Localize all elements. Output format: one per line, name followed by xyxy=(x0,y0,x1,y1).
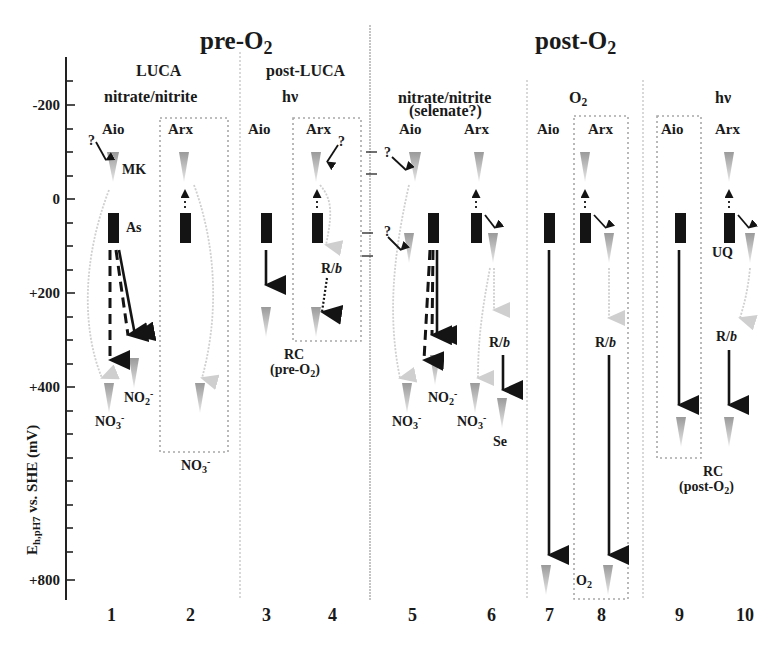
column-number: 7 xyxy=(545,606,554,624)
label-as: As xyxy=(126,221,142,235)
group-dividers xyxy=(240,52,643,600)
label-no3-5: NO3- xyxy=(392,415,421,429)
enzyme-aio-9: Aio xyxy=(661,122,684,137)
label-se: Se xyxy=(493,435,507,449)
column-number: 10 xyxy=(736,606,754,624)
group-hv-post: hν xyxy=(715,90,731,106)
question-mark: ? xyxy=(338,135,345,149)
label-o2: O2 xyxy=(576,574,592,588)
y-tick-label: -200 xyxy=(10,98,60,113)
column-number: 1 xyxy=(107,606,116,624)
enzyme-arx-2: Arx xyxy=(168,122,193,137)
solid-arrows xyxy=(119,250,729,555)
label-no3-6: NO3- xyxy=(457,415,486,429)
label-rb-6: R/b xyxy=(489,336,510,350)
enzyme-arx-4: Arx xyxy=(306,122,331,137)
label-no3-1: NO3- xyxy=(95,415,124,429)
y-axis-label: Eh,pH7 vs. SHE (mV) xyxy=(25,425,40,555)
enzyme-aio-3: Aio xyxy=(248,122,271,137)
label-no2-1: NO2- xyxy=(124,391,153,405)
era-title-post-o2: post-O2 xyxy=(535,28,616,53)
era-title-pre-o2: pre-O2 xyxy=(200,28,272,53)
y-tick-label: +200 xyxy=(10,286,60,301)
column-number: 9 xyxy=(675,606,684,624)
label-rc-post-o2: (post-O2) xyxy=(679,480,734,494)
enzyme-arx-10: Arx xyxy=(715,122,740,137)
question-mark: ? xyxy=(384,146,391,160)
label-uq: UQ xyxy=(712,246,733,260)
label-rb-8: R/b xyxy=(595,336,616,350)
column-number: 4 xyxy=(328,606,337,624)
group-o2: O2 xyxy=(569,90,587,106)
group-hv-pre: hν xyxy=(282,89,298,105)
y-tick-label: +800 xyxy=(10,573,60,588)
label-rb-4: R/b xyxy=(321,262,342,276)
column-number: 3 xyxy=(262,606,271,624)
small-arrows xyxy=(96,142,749,250)
column-number: 5 xyxy=(408,606,417,624)
y-tick-label: +400 xyxy=(10,380,60,395)
dashed-arrows xyxy=(110,250,433,360)
enzyme-arx-8: Arx xyxy=(588,122,613,137)
column-number: 8 xyxy=(597,606,606,624)
label-rc-pre: RC xyxy=(284,348,304,362)
label-rc-pre-o2: (pre-O2) xyxy=(270,363,320,377)
group-post-luca: post-LUCA xyxy=(266,63,345,79)
dotted-arrow-rb xyxy=(322,278,327,312)
enzyme-arx-6: Arx xyxy=(464,122,489,137)
y-axis xyxy=(66,57,75,600)
question-mark: ? xyxy=(88,134,95,148)
y-tick-label: 0 xyxy=(10,192,60,207)
enzyme-aio-7: Aio xyxy=(537,122,560,137)
label-rc-post: RC xyxy=(703,465,723,479)
label-rb-10: R/b xyxy=(716,330,737,344)
arsenite-boxes xyxy=(108,213,735,243)
label-no3-2: NO3- xyxy=(181,459,210,473)
dotted-up-arrows xyxy=(185,190,729,208)
question-mark: ? xyxy=(384,225,391,239)
label-mk: MK xyxy=(122,163,146,177)
column-number: 2 xyxy=(186,606,195,624)
enzyme-aio-5: Aio xyxy=(399,122,422,137)
column-number: 6 xyxy=(487,606,496,624)
group-selenate: (selenate?) xyxy=(409,103,482,119)
group-luca: LUCA xyxy=(136,63,181,79)
enzyme-aio-1: Aio xyxy=(102,122,125,137)
group-nitrate-nitrite: nitrate/nitrite xyxy=(104,89,197,105)
label-no2-5: NO2- xyxy=(428,391,457,405)
